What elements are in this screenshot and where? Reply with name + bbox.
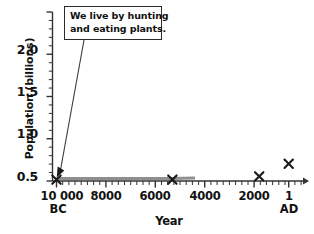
y-tick-label-1: 1.0 (4, 126, 38, 141)
data-point-marker (255, 172, 263, 180)
y-tick-label-2: 1.5 (4, 84, 38, 99)
x-axis-arrowhead (303, 178, 309, 185)
y-tick-label-0: 0.5 (4, 169, 38, 184)
x-axis-title-text: Year (155, 214, 183, 228)
x-tick-label-1: 8000 (90, 189, 121, 203)
x-tick-label-4: 2000 (238, 189, 269, 203)
x-axis-title: Year (0, 214, 314, 228)
y-tick-label-3: 2.0 (4, 42, 38, 57)
annotation-arrow-line (61, 40, 85, 170)
x-tick-label-3: 4000 (189, 189, 220, 203)
annotation-line-1: We live by hunting (70, 10, 156, 23)
data-point-marker (285, 160, 293, 168)
x-major-ticks (57, 181, 289, 188)
population-chart: Population (billions) 0.5 1.0 1.5 2.0 10… (0, 0, 314, 234)
x-tick-label-2: 6000 (139, 189, 170, 203)
x-tick-label-5: 1 (285, 189, 293, 203)
annotation-line-2: and eating plants. (70, 23, 156, 36)
data-markers (52, 160, 293, 184)
x-tick-label-0: 10 000 (41, 189, 84, 203)
annotation-callout: We live by hunting and eating plants. (64, 6, 162, 40)
